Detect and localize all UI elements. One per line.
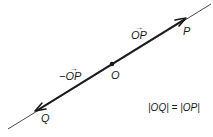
diagram-lines bbox=[0, 0, 213, 137]
label-vector-neg-op: −OP→ bbox=[59, 71, 81, 82]
label-vector-op: OP→ bbox=[131, 30, 147, 41]
vector-diagram: OP→ P O −OP→ Q |OQ| = |OP| bbox=[0, 0, 213, 137]
label-point-q: Q bbox=[41, 113, 50, 124]
label-point-o: O bbox=[111, 70, 120, 81]
label-point-p: P bbox=[183, 26, 190, 37]
vector-op-shaft bbox=[112, 19, 185, 64]
origin-dot bbox=[110, 62, 115, 67]
equation-label: |OQ| = |OP| bbox=[148, 103, 200, 113]
